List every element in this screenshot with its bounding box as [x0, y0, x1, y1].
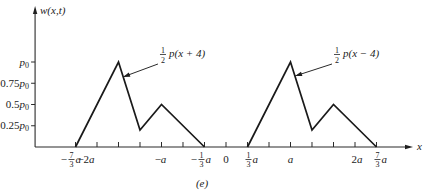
x-tick-label-sign: −: [61, 153, 67, 165]
series-group: [76, 62, 377, 147]
x-tick-label-text: −a: [155, 153, 167, 165]
y-tick-label-subscript: 0: [25, 103, 29, 112]
x-tick-label: a: [288, 153, 294, 165]
annotation-fraction-numerator: 1: [335, 46, 339, 55]
annotation-label: p(x + 4): [168, 47, 205, 60]
y-tick-label: p0: [19, 56, 30, 70]
annotation-label: p(x − 4): [342, 47, 379, 60]
annotation-arrowhead: [123, 72, 130, 77]
x-tick-label: −13a: [191, 151, 212, 169]
x-tick-label-denominator: 3: [246, 160, 250, 169]
x-tick-label-variable: a: [381, 153, 387, 165]
x-tick-label-denominator: 3: [375, 160, 379, 169]
x-axis-label: x: [416, 140, 422, 152]
wave-superposition-chart: 12p(x + 4)12p(x − 4) −73a−2a−a−13a013aa2…: [0, 0, 428, 196]
x-tick-label-numerator: 1: [200, 151, 204, 160]
x-tick-label-variable: a: [206, 153, 212, 165]
x-tick-label-text: a: [288, 153, 294, 165]
figure-caption: (e): [196, 177, 209, 190]
y-tick-label: 0.25p0: [0, 119, 29, 133]
annotation-arrowhead: [295, 72, 302, 76]
x-tick-label-numerator: 1: [246, 151, 250, 160]
x-tick-label: −a: [155, 153, 167, 165]
y-axis-arrowhead: [33, 6, 37, 14]
series-line-p-x-plus-4: [76, 62, 205, 147]
y-tick-label: 0.5p0: [6, 98, 29, 112]
x-tick-label-text: 2a: [352, 153, 364, 165]
x-tick-label-variable: a: [357, 153, 363, 165]
x-tick-label-numerator: 7: [375, 151, 379, 160]
y-tick-label-coef: 0.25: [0, 119, 20, 131]
x-tick-label-text: −2a: [77, 153, 95, 165]
y-tick-label-coef: 0.75: [0, 77, 20, 89]
y-axis-label: w(x,t): [40, 4, 66, 17]
annotation: 12p(x − 4): [295, 46, 379, 76]
annotation: 12p(x + 4): [123, 46, 205, 77]
x-tick-label-coef: 0: [223, 153, 229, 165]
x-axis-arrowhead: [405, 145, 413, 149]
annotation-fraction-denominator: 2: [161, 56, 165, 65]
annotation-fraction-denominator: 2: [335, 56, 339, 65]
y-tick-label-subscript: 0: [25, 82, 29, 91]
x-tick-label: 73a: [374, 151, 387, 169]
x-tick-label: 2a: [352, 153, 364, 165]
x-tick-label: 0: [223, 153, 229, 165]
x-tick-label-denominator: 3: [200, 160, 204, 169]
y-tick-label-subscript: 0: [25, 61, 29, 70]
x-tick-label-numerator: 7: [70, 151, 74, 160]
annotation-fraction-numerator: 1: [161, 46, 165, 55]
x-tick-label-text: 0: [223, 153, 229, 165]
x-tick-label-variable: a: [288, 153, 294, 165]
x-tick-label-sign: −: [191, 153, 197, 165]
x-tick-label-variable: a: [252, 153, 258, 165]
x-tick-label: −2a: [77, 153, 95, 165]
x-tick-label: 13a: [245, 151, 258, 169]
annotations: 12p(x + 4)12p(x − 4): [123, 46, 379, 77]
y-tick-label-coef: 0.5: [6, 98, 20, 110]
x-tick-label-variable: a: [161, 153, 167, 165]
y-tick-label: 0.75p0: [0, 77, 29, 91]
tick-labels: −73a−2a−a−13a013aa2a73ap00.75p00.5p00.25…: [0, 56, 387, 170]
series-line-p-x-minus-4: [248, 62, 377, 147]
x-tick-label-variable: a: [89, 153, 95, 165]
x-tick-label-denominator: 3: [70, 160, 74, 169]
x-tick-label-coef: −2: [77, 153, 89, 165]
y-tick-label-subscript: 0: [25, 124, 29, 133]
